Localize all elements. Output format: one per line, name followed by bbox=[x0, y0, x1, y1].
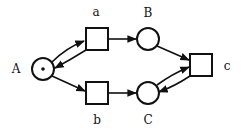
label-transition-a: a bbox=[92, 5, 99, 19]
label-transition-b: b bbox=[93, 113, 101, 127]
transition-b bbox=[86, 82, 108, 104]
arc-A-to-a bbox=[52, 41, 84, 62]
place-B bbox=[137, 28, 159, 50]
petri-net-diagram: A B C a b c bbox=[0, 0, 241, 132]
label-place-B: B bbox=[144, 6, 153, 20]
label-place-A: A bbox=[11, 62, 21, 76]
place-C bbox=[137, 82, 159, 104]
arc-B-to-c bbox=[157, 46, 189, 60]
arc-a-to-A bbox=[55, 50, 86, 68]
transition-a bbox=[86, 28, 108, 50]
transition-c bbox=[190, 54, 212, 76]
arc-A-to-b bbox=[52, 76, 85, 91]
label-place-C: C bbox=[143, 113, 152, 127]
label-transition-c: c bbox=[224, 59, 231, 73]
arc-c-to-C bbox=[159, 76, 190, 92]
token-A bbox=[41, 67, 45, 71]
arc-C-to-c bbox=[157, 67, 189, 85]
